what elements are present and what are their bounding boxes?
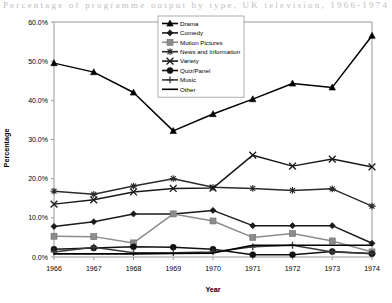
x-axis-tick-group: 196619671968196919701971197219731974	[46, 257, 380, 272]
y-axis-tick-label: 0.0%	[32, 254, 48, 261]
legend-label: Comedy	[180, 29, 204, 36]
x-axis-tick-label: 1966	[46, 265, 62, 272]
y-axis-tick-label: 30.0%	[28, 136, 48, 143]
legend-item-quiz-panel[interactable]: Quiz/Panel	[162, 67, 210, 74]
y-axis-tick-group: 0.0%10.0%20.0%30.0%40.0%50.0%60.0%	[28, 19, 54, 261]
x-axis-tick-label: 1973	[324, 265, 340, 272]
y-axis-tick-label: 60.0%	[28, 19, 48, 26]
y-axis-title: Percentage	[2, 129, 11, 168]
page-header-artifact: Percentage of programme output by type, …	[0, 0, 392, 10]
series-news-and-information	[50, 175, 375, 209]
chart-container: Percentage of programme output by type, …	[0, 0, 392, 303]
y-axis-tick-label: 20.0%	[28, 175, 48, 182]
legend-label: Other	[180, 86, 195, 93]
y-axis-tick-label: 10.0%	[28, 214, 48, 221]
legend-label: Motion Pictures	[180, 39, 223, 46]
y-axis-tick-label: 50.0%	[28, 58, 48, 65]
y-axis-tick-label: 40.0%	[28, 97, 48, 104]
x-axis-tick-label: 1971	[245, 265, 261, 272]
x-axis-title: Year	[205, 285, 220, 294]
x-axis-tick-label: 1968	[126, 265, 142, 272]
series-variety	[51, 152, 376, 208]
legend-item-motion-pictures[interactable]: Motion Pictures	[162, 39, 223, 46]
legend-label: Music	[180, 76, 196, 83]
x-axis-tick-label: 1974	[364, 265, 380, 272]
legend-item-variety[interactable]: Variety	[162, 57, 200, 64]
x-axis-tick-label: 1967	[86, 265, 102, 272]
legend-label: Quiz/Panel	[180, 67, 210, 74]
x-axis-tick-label: 1970	[205, 265, 221, 272]
x-axis-tick-label: 1972	[285, 265, 301, 272]
legend-label: News and Information	[180, 48, 241, 55]
legend-label: Drama	[180, 20, 199, 27]
line-chart: 0.0%10.0%20.0%30.0%40.0%50.0%60.0% 19661…	[0, 0, 392, 303]
chart-legend: DramaComedyMotion PicturesNews and Infor…	[158, 16, 244, 97]
x-axis-tick-label: 1969	[165, 265, 181, 272]
legend-label: Variety	[180, 57, 200, 64]
